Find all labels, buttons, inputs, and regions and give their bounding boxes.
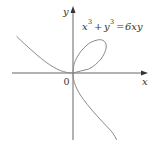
curve-lower-branch: [73, 73, 117, 140]
equation-label: x 3 + y 3 = 6xy: [82, 18, 143, 32]
y-axis-arrowhead-icon: [71, 6, 76, 13]
curve-loop: [73, 40, 106, 73]
x-axis-arrowhead-icon: [141, 71, 148, 76]
folium-diagram: y x 0 x 3 + y 3 = 6xy: [0, 0, 157, 149]
curve-left-branch: [17, 37, 73, 74]
folium-curve: [17, 37, 117, 140]
eq-rhs: 6xy: [125, 21, 143, 32]
eq-x-exponent: 3: [88, 18, 92, 26]
y-axis-label: y: [62, 6, 69, 17]
eq-plus: +: [94, 21, 102, 32]
x-axis-label: x: [142, 76, 148, 87]
origin-label: 0: [64, 76, 70, 87]
eq-y-exponent: 3: [110, 18, 114, 26]
eq-equals: =: [116, 21, 124, 32]
eq-y: y: [103, 21, 110, 32]
